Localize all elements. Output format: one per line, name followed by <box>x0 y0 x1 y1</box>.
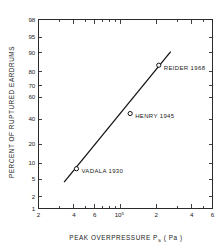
x-tick-label-4: 2 <box>155 211 159 218</box>
x-tick-label-2: 6 <box>93 211 97 218</box>
data-point-marker-0 <box>74 167 78 171</box>
y-tick-label-20: 20 <box>28 140 35 147</box>
data-point-label-2: REIDER 1968 <box>164 65 206 71</box>
y-tick-label-5: 5 <box>32 175 36 182</box>
x-tick-label-6: 6 <box>211 211 215 218</box>
x-tick-label-0: 2 <box>37 211 41 218</box>
y-tick-label-40: 40 <box>28 115 35 122</box>
data-point-marker-1 <box>128 111 132 115</box>
y-tick-label-80: 80 <box>28 68 35 75</box>
y-tick-label-70: 70 <box>28 82 35 89</box>
y-tick-label-95: 95 <box>28 33 35 40</box>
x-tick-label-1: 4 <box>72 211 76 218</box>
y-axis-title: PERCENT OF RUPTURED EARDRUMS <box>8 46 15 178</box>
y-tick-label-1: 1 <box>32 205 36 212</box>
y-tick-label-60: 60 <box>28 93 35 100</box>
y-tick-label-10: 10 <box>28 159 35 166</box>
y-tick-label-90: 90 <box>28 49 35 56</box>
data-point-label-1: HENRY 1945 <box>135 113 175 119</box>
y-tick-label-2: 2 <box>32 193 36 200</box>
data-point-label-0: VADALA 1930 <box>81 168 123 174</box>
data-point-marker-2 <box>157 63 161 67</box>
chart-figure: 246105246 125102040607080909598 VADALA 1… <box>0 0 224 252</box>
eardrum-rupture-probability-chart: 246105246 125102040607080909598 VADALA 1… <box>0 0 224 252</box>
x-tick-label-5: 4 <box>190 211 194 218</box>
y-tick-label-98: 98 <box>28 16 35 23</box>
